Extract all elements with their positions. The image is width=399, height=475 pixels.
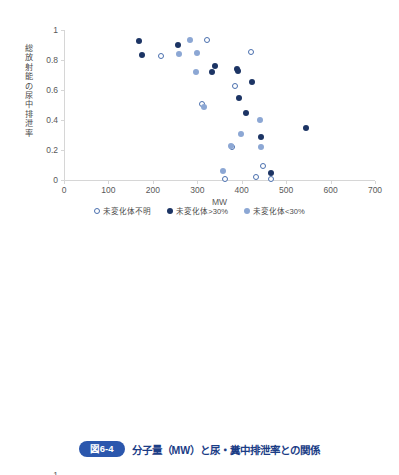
legend-marker-icon	[94, 208, 100, 214]
y-axis-tick-label: 0.2	[36, 145, 58, 155]
data-point	[139, 52, 145, 58]
x-axis-tick-label: 0	[51, 185, 77, 195]
data-point	[257, 117, 263, 123]
data-point	[187, 37, 193, 43]
y-axis-tick	[61, 120, 64, 121]
legend-marker-icon	[244, 208, 250, 214]
y-axis-title-char: 総	[22, 44, 36, 53]
y-axis-tick-label: 0.4	[36, 115, 58, 125]
data-point	[158, 53, 164, 59]
legend-item[interactable]: 未変化体>30%	[167, 205, 228, 216]
figure-page: 総放射能の尿中排泄率 00.20.40.60.81010020030040050…	[0, 0, 399, 475]
x-axis-tick-label: 500	[273, 185, 299, 195]
y-axis-title-char: 率	[22, 129, 36, 138]
x-axis-tick	[153, 181, 154, 184]
x-axis-tick-label: 700	[362, 185, 388, 195]
data-point	[268, 176, 274, 182]
figure-number-badge: 図6-4	[79, 441, 125, 457]
data-point	[248, 49, 254, 55]
data-point	[220, 168, 226, 174]
figure-caption: 図6-4 分子量（MW）と尿・糞中排泄率との関係	[0, 441, 399, 457]
y-axis-tick	[61, 60, 64, 61]
data-point	[243, 110, 249, 116]
y-axis-tick-label: 0.8	[36, 55, 58, 65]
x-axis-tick	[64, 181, 65, 184]
x-axis-tick-label: 300	[184, 185, 210, 195]
data-point	[238, 131, 244, 137]
y-axis-tick-label: 0.6	[36, 85, 58, 95]
data-point	[201, 104, 207, 110]
y-axis-tick-label: 1	[36, 470, 58, 475]
x-axis-tick	[375, 181, 376, 184]
data-point	[232, 83, 238, 89]
data-point	[136, 38, 142, 44]
data-point	[176, 51, 182, 57]
y-axis-tick-label: 0	[36, 175, 58, 185]
y-axis-tick	[61, 90, 64, 91]
y-axis-tick	[61, 150, 64, 151]
x-axis-tick-label: 400	[229, 185, 255, 195]
y-axis-tick	[61, 30, 64, 31]
data-point	[194, 50, 200, 56]
data-point	[260, 163, 266, 169]
data-point	[228, 143, 234, 149]
y-axis-title-char: の	[22, 82, 36, 91]
data-point	[249, 79, 255, 85]
data-point	[253, 174, 259, 180]
legend-marker-icon	[167, 208, 173, 214]
legend-item[interactable]: 未変化体不明	[94, 205, 151, 216]
data-point	[236, 95, 242, 101]
y-axis-line	[64, 30, 65, 180]
data-point	[303, 125, 309, 131]
y-axis-tick-label: 1	[36, 25, 58, 35]
data-point	[204, 37, 210, 43]
x-axis-tick	[108, 181, 109, 184]
x-axis-tick	[242, 181, 243, 184]
y-axis-title-char: 泄	[22, 119, 36, 128]
x-axis-line	[64, 180, 375, 181]
data-point	[175, 42, 181, 48]
legend-item[interactable]: 未変化体<30%	[244, 205, 305, 216]
chart1-legend: 未変化体不明未変化体>30%未変化体<30%	[0, 205, 399, 216]
x-axis-tick-label: 600	[318, 185, 344, 195]
x-axis-tick-label: 200	[140, 185, 166, 195]
figure-caption-text: 分子量（MW）と尿・糞中排泄率との関係	[132, 442, 321, 457]
y-axis-title-char: 中	[22, 100, 36, 109]
x-axis-tick	[331, 181, 332, 184]
data-point	[235, 68, 241, 74]
legend-label: 未変化体<30%	[253, 205, 305, 216]
legend-label: 未変化体>30%	[176, 205, 228, 216]
data-point	[268, 170, 274, 176]
chart-urinary-excretion: 総放射能の尿中排泄率 00.20.40.60.81010020030040050…	[0, 0, 399, 230]
data-point	[209, 69, 215, 75]
y-axis-title-char: 射	[22, 63, 36, 72]
x-axis-tick-label: 100	[95, 185, 121, 195]
y-axis-title-char: 能	[22, 72, 36, 81]
y-axis-title-char: 排	[22, 110, 36, 119]
x-axis-tick	[286, 181, 287, 184]
x-axis-tick	[197, 181, 198, 184]
y-axis-title-char: 放	[22, 53, 36, 62]
data-point	[258, 134, 264, 140]
data-point	[193, 69, 199, 75]
legend-label: 未変化体不明	[103, 205, 151, 216]
chart-fecal-excretion: 総放射能の糞中排泄率 00.20.40.60.81010020030040050…	[0, 230, 399, 435]
data-point	[258, 144, 264, 150]
chart1-y-axis-title: 総放射能の尿中排泄率	[22, 44, 36, 138]
data-point	[222, 176, 228, 182]
chart1-plot-area: 00.20.40.60.810100200300400500600700MW	[64, 30, 375, 180]
